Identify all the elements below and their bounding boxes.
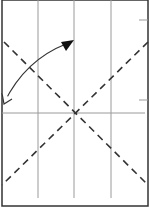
fold-diagram [0, 0, 150, 209]
paper-outline [2, 0, 148, 206]
